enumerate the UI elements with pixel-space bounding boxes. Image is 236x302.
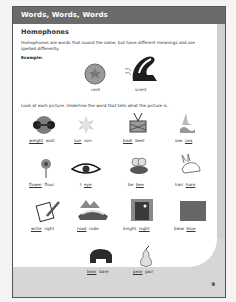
sea-icon [178,111,196,135]
writing-icon [35,198,61,224]
road-icon [76,198,110,222]
page-number: 9 [212,281,215,287]
example-word: scent [135,87,146,92]
word-option: road rode [77,226,99,231]
word-option: knight night [123,226,150,231]
pear-icon [137,245,155,267]
side-strip [217,24,225,254]
footer-band [13,267,225,297]
drum-icon [126,111,150,135]
instruction-text: Look at each picture. Underline the word… [21,103,168,108]
word-option: weight wait [29,138,55,143]
flower-icon [39,158,53,178]
word-option: write right [31,226,54,231]
eye-icon [71,162,101,176]
hare-icon [178,153,204,177]
skunk-icon [123,53,161,85]
word-option: sun son [74,138,92,143]
weight-icon [32,115,56,135]
bee-icon [128,157,150,177]
word-option: see sea [175,138,192,143]
example-label: Example: [21,55,211,60]
section: Homophones Homophones are words that sou… [21,28,211,60]
header-bar: Words, Words, Words [13,7,225,24]
example-word: cent [91,87,100,92]
word-option: hair hare [175,182,195,187]
bear-icon [88,247,114,265]
word-option: be bee [128,182,144,187]
word-option: I eye [80,182,92,187]
word-option: beat beet [123,138,145,143]
cent-coin-icon [84,63,106,85]
word-option: blew blue [174,226,196,231]
section-title: Homophones [21,28,211,36]
word-option: bear bare [87,269,109,274]
word-option: pear pair [133,269,153,274]
night-window-icon [130,198,154,222]
header-title: Words, Words, Words [21,11,108,19]
section-intro: Homophones are words that sound the same… [21,40,211,52]
sun-icon [76,115,96,135]
word-option: flower flour [29,182,54,187]
worksheet-page: Words, Words, Words Homophones Homophone… [12,6,226,298]
blue-square-icon [180,201,206,221]
